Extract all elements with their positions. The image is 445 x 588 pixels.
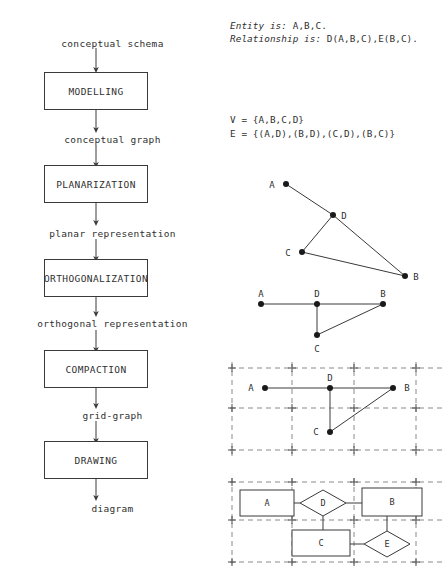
graph-edge-set: E = {(A,D),(B,D),(C,D),(B,C)} <box>230 128 395 139</box>
flow-label-orthogonal-representation: orthogonal representation <box>0 318 225 329</box>
graph-node-label-D: D <box>314 289 319 299</box>
graph-node-label-C: C <box>314 344 319 354</box>
flow-box-compaction: COMPACTION <box>44 350 148 388</box>
conceptual-graph-figure: ADCB <box>245 168 445 293</box>
flow-box-planarization: PLANARIZATION <box>44 165 148 203</box>
er-entity-label-C: C <box>318 538 323 548</box>
pipeline-flowchart: conceptual schema MODELLING conceptual g… <box>0 0 225 588</box>
graph-edge-CB <box>317 304 383 335</box>
flow-label-conceptual-graph: conceptual graph <box>0 134 225 145</box>
er-relationship-label-D: D <box>320 498 325 508</box>
graph-node-B <box>380 301 386 307</box>
graph-node-label-B: B <box>413 272 418 282</box>
graph-edge-AD <box>286 184 333 215</box>
er-entity-label-A: A <box>264 498 269 508</box>
conceptual-graph-svg: ADCB <box>245 168 445 293</box>
graph-node-label-A: A <box>258 289 264 299</box>
flow-box-modelling-label: MODELLING <box>68 86 123 97</box>
flow-box-compaction-label: COMPACTION <box>65 364 126 375</box>
flow-label-planar-representation: planar representation <box>0 228 225 239</box>
flow-label-diagram: diagram <box>0 503 225 514</box>
flow-box-orthogonalization: ORTHOGONALIZATION <box>44 259 148 297</box>
er-relationship-label-E: E <box>384 539 389 549</box>
flow-box-drawing-label: DRAWING <box>75 455 118 466</box>
schema-entity-line: Entity is: A,B,C. <box>230 20 327 31</box>
graph-edge-DB <box>333 215 405 276</box>
graph-vertex-set: V = {A,B,C,D} <box>230 114 304 125</box>
graph-node-D <box>330 212 336 218</box>
flow-box-orthogonalization-label: ORTHOGONALIZATION <box>44 273 148 284</box>
graph-edge-CB <box>330 388 393 432</box>
graph-node-label-B: B <box>404 383 409 393</box>
er-entity-label-B: B <box>389 497 394 507</box>
er-diagram-svg: ABCDE <box>230 478 445 576</box>
schema-entity-value: A,B,C. <box>293 20 327 31</box>
schema-relationship-line: Relationship is: D(A,B,C),E(B,C). <box>230 33 418 44</box>
graph-node-label-C: C <box>285 248 290 258</box>
graph-node-label-C: C <box>313 427 318 437</box>
graph-node-label-B: B <box>380 289 385 299</box>
flow-box-planarization-label: PLANARIZATION <box>56 179 136 190</box>
flow-box-drawing: DRAWING <box>44 441 148 479</box>
graph-node-D <box>314 301 320 307</box>
graph-edge-CB <box>302 252 405 276</box>
graph-node-A <box>283 181 289 187</box>
schema-relationship-value: D(A,B,C),E(B,C). <box>327 33 418 44</box>
graph-node-label-A: A <box>269 180 275 190</box>
graph-node-label-A: A <box>248 383 254 393</box>
graph-node-D <box>327 385 333 391</box>
stage-artifacts-column: Entity is: A,B,C. Relationship is: D(A,B… <box>225 0 445 588</box>
graph-node-C <box>314 332 320 338</box>
schema-relationship-keyword: Relationship is: <box>230 33 321 44</box>
schema-entity-keyword: Entity is: <box>230 20 287 31</box>
planar-representation-figure: ADBC <box>245 290 445 352</box>
graph-node-B <box>390 385 396 391</box>
planar-representation-svg: ADBC <box>245 290 445 352</box>
graph-node-label-D: D <box>341 211 346 221</box>
graph-node-B <box>402 273 408 279</box>
flow-box-modelling: MODELLING <box>44 72 148 110</box>
graph-node-C <box>327 429 333 435</box>
graph-node-A <box>258 301 264 307</box>
grid-graph-svg: ADBC <box>230 362 445 462</box>
graph-node-label-D: D <box>327 373 332 383</box>
flow-label-grid-graph: grid-graph <box>0 410 225 421</box>
graph-edge-DC <box>302 215 333 252</box>
graph-node-C <box>299 249 305 255</box>
er-diagram-figure: ABCDE <box>230 478 445 576</box>
grid-graph-figure: ADBC <box>230 362 445 462</box>
flow-label-conceptual-schema: conceptual schema <box>0 38 225 49</box>
graph-node-A <box>262 385 268 391</box>
